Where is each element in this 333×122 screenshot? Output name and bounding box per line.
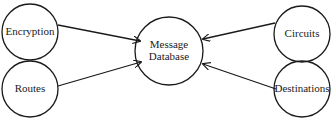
node-label-message-database-line2: Database — [149, 51, 189, 63]
node-label-message-database: Message Database — [149, 39, 189, 62]
edge-circuits-to-message_database — [203, 23, 275, 39]
node-label-message-database-line1: Message — [149, 39, 189, 51]
diagram-canvas: Encryption Routes Message Database Circu… — [0, 0, 333, 122]
node-label-routes: Routes — [15, 83, 46, 95]
node-label-circuits: Circuits — [285, 28, 320, 40]
edge-encryption-to-message_database — [58, 25, 140, 41]
edge-routes-to-message_database — [58, 62, 141, 86]
edge-destinations-to-message_database — [203, 64, 276, 89]
node-label-encryption: Encryption — [6, 26, 55, 38]
node-label-destinations: Destinations — [275, 83, 330, 95]
